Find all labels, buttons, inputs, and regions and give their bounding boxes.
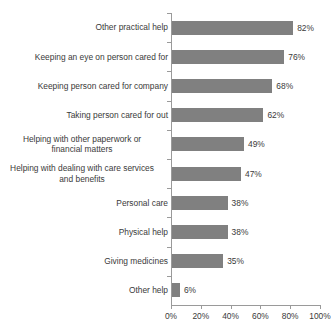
bar-track: 35% [171,247,334,276]
y-axis-tick [167,159,171,160]
x-axis-tick-label: 60% [252,311,269,321]
category-label-line: Personal care [116,198,168,208]
bar-track: 82% [171,13,334,42]
category-label-line: Helping with other paperwork or [23,134,141,144]
bar-row: Helping with other paperwork orfinancial… [0,130,334,159]
category-label: Helping with other paperwork orfinancial… [0,130,168,159]
x-axis-tick [231,305,232,309]
bar-track: 6% [171,276,334,305]
x-axis-tick [320,305,321,309]
bar-row: Keeping an eye on person cared for76% [0,42,334,71]
category-label-line: Other practical help [95,22,168,32]
category-label-line: Giving medicines [104,256,168,266]
y-axis-tick [167,42,171,43]
category-label-line: Other help [129,285,168,295]
bar-track: 38% [171,217,334,246]
category-label: Taking person cared for out [8,101,168,130]
bar-track: 76% [171,42,334,71]
bar [171,21,293,35]
bar [171,196,228,210]
category-label: Giving medicines [8,247,168,276]
category-label-line: Helping with dealing with care services [10,163,154,173]
bar-row: Physical help38% [0,217,334,246]
bar [171,283,180,297]
y-axis-tick [167,130,171,131]
bar [171,79,272,93]
bar-row: Helping with dealing with care servicesa… [0,159,334,188]
y-axis-tick [167,101,171,102]
bar-row: Keeping person cared for company68% [0,71,334,100]
bar [171,225,228,239]
x-axis-tick [290,305,291,309]
y-axis-tick [167,71,171,72]
bar-value-label: 35% [227,256,244,266]
bar [171,50,284,64]
bar-value-label: 6% [184,285,196,295]
bar-value-label: 62% [267,110,284,120]
category-label: Personal care [8,188,168,217]
bar-row: Giving medicines35% [0,247,334,276]
x-axis-line [171,305,321,306]
category-label-line: Taking person cared for out [67,110,169,120]
category-label: Keeping person cared for company [8,71,168,100]
bar-track: 38% [171,188,334,217]
bar-value-label: 47% [245,169,262,179]
x-axis-tick-label: 100% [309,311,330,321]
bar-value-label: 82% [297,23,314,33]
x-axis-tick-label: 80% [282,311,299,321]
category-label-line: financial matters [52,144,113,154]
x-axis-tick-label: 40% [222,311,239,321]
category-label: Physical help [8,217,168,246]
bar [171,108,263,122]
x-axis-tick [201,305,202,309]
bar-value-label: 49% [248,139,265,149]
category-label: Other help [8,276,168,305]
category-label-line: and benefits [59,174,105,184]
y-axis-tick [167,188,171,189]
y-axis-tick [167,247,171,248]
bar [171,167,241,181]
y-axis-tick [167,217,171,218]
bar-track: 47% [171,159,334,188]
x-axis-tick-label: 20% [192,311,209,321]
category-label: Keeping an eye on person cared for [8,42,168,71]
bar-row: Personal care38% [0,188,334,217]
bar-track: 68% [171,71,334,100]
category-label-line: Keeping an eye on person cared for [35,52,168,62]
category-label: Helping with dealing with care servicesa… [0,159,168,188]
bar-track: 49% [171,130,334,159]
x-axis-tick [260,305,261,309]
category-label-line: Physical help [119,227,168,237]
bar-chart: Other practical help82%Keeping an eye on… [0,0,334,335]
category-label: Other practical help [8,13,168,42]
y-axis-tick [167,276,171,277]
category-label-line: Keeping person cared for company [38,81,168,91]
bar-row: Other help6% [0,276,334,305]
y-axis-line [171,13,172,305]
bar-row: Taking person cared for out62% [0,101,334,130]
x-axis-tick-label: 0% [165,311,177,321]
bar-row: Other practical help82% [0,13,334,42]
bar-value-label: 76% [288,52,305,62]
y-axis-tick [167,13,171,14]
bar-value-label: 68% [276,81,293,91]
bar-track: 62% [171,101,334,130]
bar [171,254,223,268]
bar-value-label: 38% [232,198,249,208]
x-axis-tick [171,305,172,309]
bar-value-label: 38% [232,227,249,237]
bar [171,137,244,151]
